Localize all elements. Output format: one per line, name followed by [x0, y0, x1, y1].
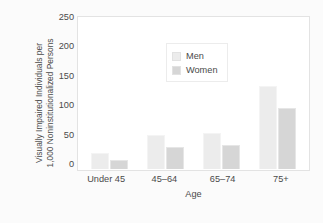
y-tick-250: 250: [48, 13, 74, 22]
y-axis-tick-labels: 250 200 150 100 50 0: [46, 0, 74, 223]
legend-item-men: Men: [172, 49, 227, 63]
legend-swatch-men-icon: [172, 52, 181, 61]
bar-men-75-plus: [259, 86, 277, 169]
bar-men-65-74: [203, 133, 221, 169]
legend-item-women: Women: [172, 63, 227, 77]
y-tick-0: 0: [48, 160, 74, 169]
bar-chart-figure: Visually Impaired Individuals per 1,000 …: [0, 0, 323, 223]
y-tick-50: 50: [48, 131, 74, 140]
x-tick-under-45: Under 45: [77, 174, 135, 184]
plot-area: Men Women: [77, 16, 310, 171]
legend-label-men: Men: [186, 52, 204, 61]
bar-women-under-45: [110, 160, 128, 169]
y-axis-title: Visually Impaired Individuals per 1,000 …: [0, 0, 40, 200]
x-axis-tick-labels: Under 45 45–64 65–74 75+: [77, 174, 310, 184]
legend-swatch-women-icon: [172, 66, 181, 75]
bar-group-under-45: [91, 17, 128, 169]
legend-label-women: Women: [186, 66, 218, 75]
bar-women-65-74: [222, 145, 240, 169]
bar-men-under-45: [91, 153, 109, 169]
y-tick-150: 150: [48, 72, 74, 81]
bar-group-75-plus: [259, 17, 296, 169]
bars-container: [78, 17, 309, 170]
y-tick-200: 200: [48, 42, 74, 51]
bar-women-75-plus: [278, 108, 296, 169]
x-tick-45-64: 45–64: [135, 174, 193, 184]
bar-group-65-74: [203, 17, 240, 169]
x-tick-65-74: 65–74: [194, 174, 252, 184]
y-tick-100: 100: [48, 101, 74, 110]
chart-legend: Men Women: [166, 43, 228, 82]
bar-group-45-64: [147, 17, 184, 169]
bar-men-45-64: [147, 135, 165, 169]
bar-women-45-64: [166, 147, 184, 169]
x-axis-title: Age: [77, 189, 310, 199]
y-axis-title-line1: Visually Impaired Individuals per: [34, 43, 44, 163]
x-tick-75-plus: 75+: [252, 174, 310, 184]
